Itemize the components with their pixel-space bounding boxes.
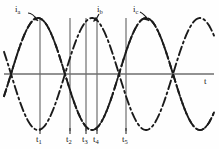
callout-arrows: [28, 12, 149, 22]
time-marker-label-t1-sub: 1: [39, 138, 42, 145]
time-marker-label-t4: t4: [93, 135, 99, 144]
time-marker-label-t5-sub: 5: [125, 138, 128, 145]
curve-label-ib: ib: [97, 5, 103, 14]
time-marker-label-t2-sub: 2: [69, 138, 72, 145]
time-marker-label-t1: t1: [36, 135, 42, 144]
time-marker-label-t2: t2: [66, 135, 72, 144]
time-marker-label-t3-sub: 3: [85, 138, 88, 145]
three-phase-current-waveform-figure: ia ib ic t t1 t2 t3 t4 t5: [0, 0, 219, 149]
time-axis-label: t: [204, 76, 207, 86]
time-marker-label-t3: t3: [82, 135, 88, 144]
time-marker-label-t5: t5: [122, 135, 128, 144]
curve-label-ia: ia: [15, 5, 20, 14]
waveform-plot: [0, 0, 219, 149]
curve-label-ia-sub: a: [18, 8, 21, 15]
curve-label-ib-sub: b: [100, 8, 103, 15]
time-marker-label-t4-sub: 4: [96, 138, 99, 145]
curve-label-ic: ic: [133, 5, 138, 14]
curve-label-ic-sub: c: [136, 8, 139, 15]
